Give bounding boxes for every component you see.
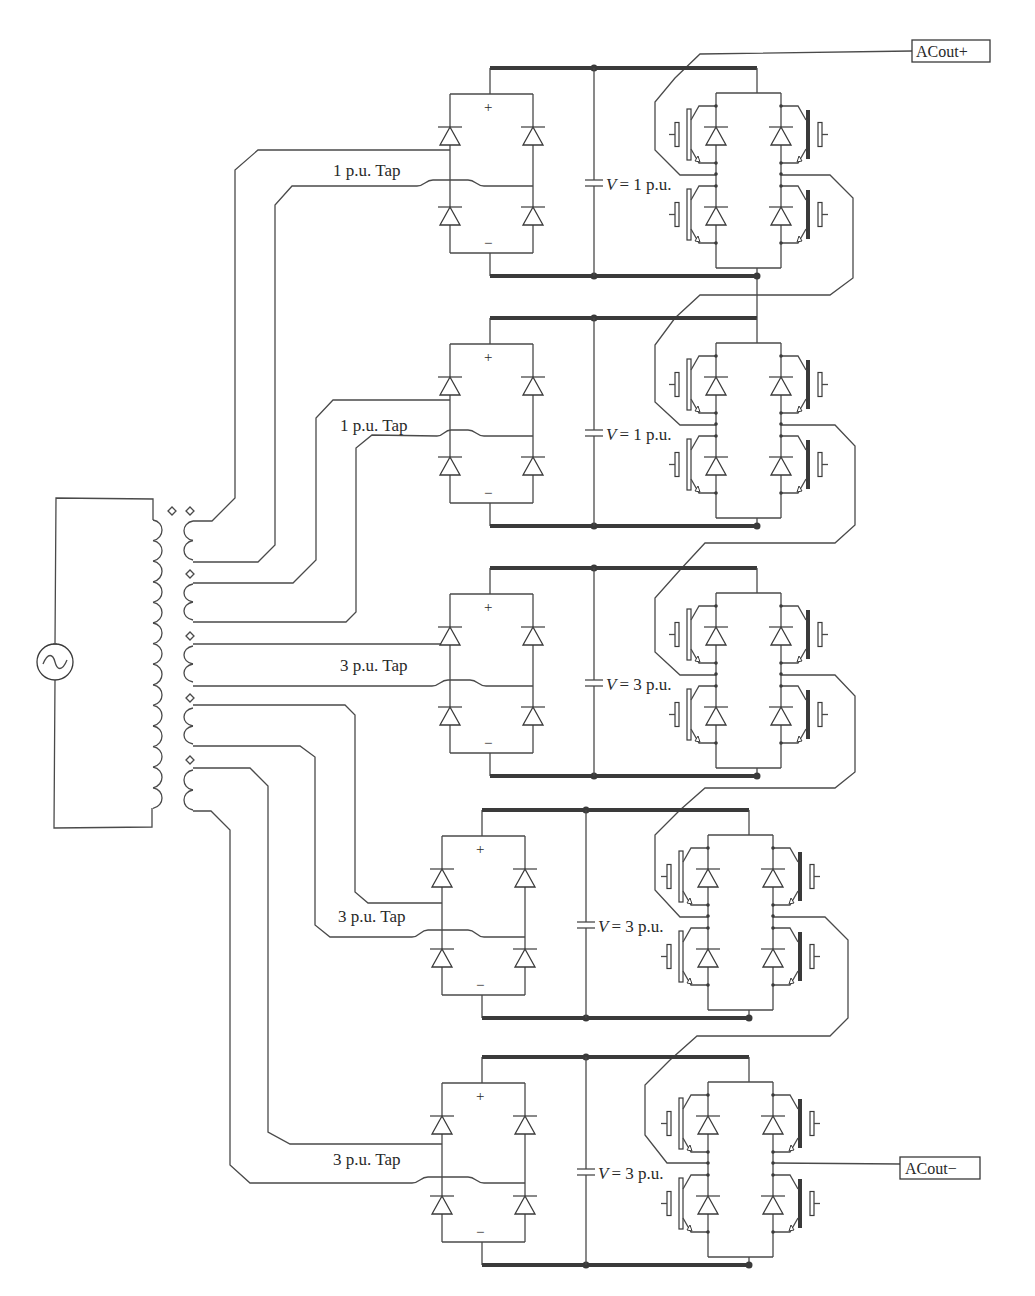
transformer-primary-winding-icon xyxy=(153,507,176,808)
diode-icon xyxy=(769,457,793,475)
tap-label: 1 p.u. Tap xyxy=(333,161,400,180)
voltage-symbol: V xyxy=(598,917,611,936)
voltage-value: = 3 p.u. xyxy=(611,1164,663,1183)
igbt-icon xyxy=(661,1093,710,1154)
igbt-icon xyxy=(669,684,718,745)
ac-source-icon xyxy=(37,644,73,680)
diode-icon xyxy=(704,457,728,475)
capacitor-voltage-label: V= 3 p.u. xyxy=(598,917,663,936)
igbt-icon xyxy=(669,434,718,495)
tap-label: 1 p.u. Tap xyxy=(340,416,407,435)
diode-rectifier-bridge xyxy=(438,94,545,253)
plus-sign: + xyxy=(476,841,484,857)
dc-capacitor-icon xyxy=(577,810,595,1018)
diode-icon xyxy=(521,207,545,225)
diode-icon xyxy=(438,207,462,225)
minus-sign: − xyxy=(484,235,492,251)
igbt-icon xyxy=(669,184,718,245)
diode-icon xyxy=(430,1116,454,1134)
diode-icon xyxy=(704,127,728,145)
diode-icon xyxy=(704,377,728,395)
capacitor-voltage-label: V= 1 p.u. xyxy=(606,425,671,444)
minus-sign: − xyxy=(476,977,484,993)
dc-capacitor-icon xyxy=(585,68,603,276)
diode-icon xyxy=(521,377,545,395)
diode-icon xyxy=(521,457,545,475)
diode-icon xyxy=(521,127,545,145)
igbt-icon xyxy=(661,926,710,987)
igbt-icon xyxy=(661,846,710,907)
igbt-icon xyxy=(779,184,828,245)
diode-icon xyxy=(704,707,728,725)
diode-icon xyxy=(769,377,793,395)
converter-cell: +−V= 3 p.u.3 p.u. Tap xyxy=(338,807,820,1022)
secondary-winding-icon xyxy=(184,756,194,810)
voltage-value: = 3 p.u. xyxy=(619,675,671,694)
diode-icon xyxy=(438,457,462,475)
dc-capacitor-icon xyxy=(585,318,603,526)
igbt-icon xyxy=(779,604,828,665)
diode-icon xyxy=(696,1196,720,1214)
diode-icon xyxy=(438,707,462,725)
minus-sign: − xyxy=(476,1224,484,1240)
diode-icon xyxy=(704,627,728,645)
diode-rectifier-bridge xyxy=(438,344,545,503)
plus-sign: + xyxy=(484,99,492,115)
igbt-icon xyxy=(779,434,828,495)
converter-cells: +−V= 1 p.u.1 p.u. Tap+−V= 1 p.u.1 p.u. T… xyxy=(333,65,828,1269)
dc-capacitor-icon xyxy=(585,568,603,776)
diode-icon xyxy=(761,1116,785,1134)
diode-icon xyxy=(761,1196,785,1214)
minus-sign: − xyxy=(484,735,492,751)
secondary-winding-icon xyxy=(184,694,194,744)
diode-icon xyxy=(438,127,462,145)
converter-cell: +−V= 3 p.u.3 p.u. Tap xyxy=(340,565,828,780)
diode-rectifier-bridge xyxy=(430,836,537,995)
voltage-value: = 3 p.u. xyxy=(611,917,663,936)
tap-label: 3 p.u. Tap xyxy=(333,1150,400,1169)
terminal-acout-plus: ACout+ xyxy=(912,40,990,62)
diode-icon xyxy=(438,377,462,395)
diode-icon xyxy=(769,627,793,645)
igbt-icon xyxy=(779,104,828,165)
circuit-diagram: +−V= 1 p.u.1 p.u. Tap+−V= 1 p.u.1 p.u. T… xyxy=(0,0,1035,1296)
h-bridge-inverter xyxy=(669,68,828,280)
diode-icon xyxy=(769,707,793,725)
voltage-value: = 1 p.u. xyxy=(619,425,671,444)
diode-icon xyxy=(696,1116,720,1134)
dc-capacitor-icon xyxy=(577,1057,595,1265)
diode-rectifier-bridge xyxy=(430,1083,537,1242)
terminal-acout-plus-label: ACout+ xyxy=(916,43,968,60)
voltage-symbol: V xyxy=(606,425,619,444)
voltage-symbol: V xyxy=(606,675,619,694)
igbt-icon xyxy=(669,104,718,165)
plus-sign: + xyxy=(484,349,492,365)
diode-icon xyxy=(513,1116,537,1134)
transformer-secondary-windings xyxy=(184,507,194,810)
tap-label: 3 p.u. Tap xyxy=(340,656,407,675)
igbt-icon xyxy=(779,684,828,745)
diode-icon xyxy=(513,949,537,967)
h-bridge-inverter xyxy=(669,318,828,530)
diode-rectifier-bridge xyxy=(438,594,545,753)
terminal-acout-minus-label: ACout− xyxy=(905,1160,957,1177)
secondary-winding-icon xyxy=(184,507,194,560)
plus-sign: + xyxy=(484,599,492,615)
voltage-symbol: V xyxy=(598,1164,611,1183)
tap-label: 3 p.u. Tap xyxy=(338,907,405,926)
diode-icon xyxy=(430,1196,454,1214)
h-bridge-inverter xyxy=(661,810,820,1022)
voltage-symbol: V xyxy=(606,175,619,194)
igbt-icon xyxy=(771,1173,820,1234)
igbt-icon xyxy=(771,926,820,987)
diode-icon xyxy=(696,869,720,887)
plus-sign: + xyxy=(476,1088,484,1104)
diode-icon xyxy=(696,949,720,967)
igbt-icon xyxy=(661,1173,710,1234)
igbt-icon xyxy=(669,354,718,415)
capacitor-voltage-label: V= 3 p.u. xyxy=(598,1164,663,1183)
capacitor-voltage-label: V= 1 p.u. xyxy=(606,175,671,194)
diode-icon xyxy=(513,1196,537,1214)
igbt-icon xyxy=(669,604,718,665)
diode-icon xyxy=(704,207,728,225)
